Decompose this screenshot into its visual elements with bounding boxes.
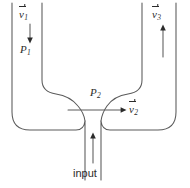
label-input: input [73, 168, 97, 179]
label-p2: P2 [90, 87, 100, 98]
input-flow-arrow [90, 133, 96, 164]
vector-arrowhead-icon [134, 99, 136, 101]
label-v2: v2 [129, 104, 138, 115]
label-v3: v3 [152, 9, 161, 20]
label-v1: v1 [19, 9, 28, 20]
v3-flow-arrow [160, 25, 166, 58]
v2-flow-arrow [68, 107, 127, 113]
label-p1: P1 [20, 44, 30, 55]
label-p1-subscript: 1 [27, 48, 31, 57]
label-p2-subscript: 2 [97, 91, 101, 100]
v1-flow-arrow [27, 24, 33, 44]
label-p2-symbol: P [90, 86, 97, 98]
vector-arrowhead-icon [157, 4, 159, 6]
inner-left-wall [42, 3, 85, 121]
venturi-diagram: v1 P1 v3 P2 v2 input [0, 0, 190, 188]
label-p1-symbol: P [20, 43, 27, 55]
label-v3-subscript: 3 [157, 13, 161, 22]
vector-arrowhead-icon [24, 4, 26, 6]
label-v2-subscript: 2 [134, 108, 138, 117]
label-v1-subscript: 1 [24, 13, 28, 22]
